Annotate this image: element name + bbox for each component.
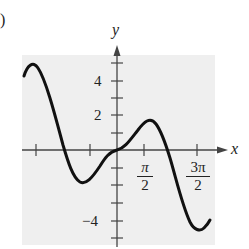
x-tick-label-pi-over-2: π 2: [137, 160, 153, 193]
y-tick-label-2: 2: [94, 108, 102, 123]
x-tick-numerator: π: [137, 160, 153, 177]
x-axis-arrow-icon: [217, 147, 228, 154]
x-tick-numerator: 3π: [186, 160, 210, 177]
y-tick-label-4: 4: [94, 74, 102, 89]
y-axis-arrow-icon: [114, 45, 121, 56]
y-tick-label-neg4: −4: [82, 214, 98, 229]
x-tick-denominator: 2: [137, 177, 153, 193]
x-tick-denominator: 2: [186, 177, 210, 193]
x-tick-label-3pi-over-2: 3π 2: [186, 160, 210, 193]
function-graph: [0, 0, 249, 249]
y-axis-label: y: [112, 22, 119, 38]
x-axis-label: x: [231, 141, 238, 157]
part-label: ): [0, 12, 5, 28]
